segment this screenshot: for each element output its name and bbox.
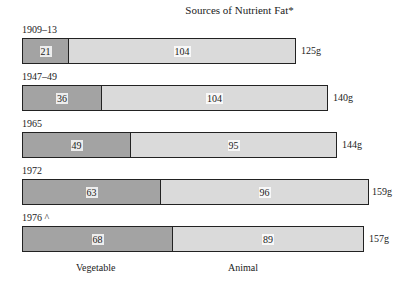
- animal-segment: 104: [102, 86, 327, 110]
- vegetable-segment: 68: [23, 227, 173, 251]
- chart-title: Sources of Nutrient Fat*: [0, 4, 409, 16]
- total-label: 140g: [333, 92, 353, 103]
- stacked-bar: 68 89: [22, 226, 364, 252]
- total-label: 144g: [342, 139, 362, 150]
- animal-value: 104: [206, 93, 223, 104]
- vegetable-value: 49: [71, 140, 83, 151]
- total-label: 157g: [369, 233, 389, 244]
- year-label: 1972: [22, 165, 42, 176]
- vegetable-value: 68: [92, 234, 104, 245]
- legend-vegetable: Vegetable: [76, 262, 115, 273]
- stacked-bar: 49 95: [22, 132, 337, 158]
- animal-value: 95: [228, 140, 240, 151]
- vegetable-value: 36: [56, 93, 68, 104]
- year-label: 1965: [22, 118, 42, 129]
- stacked-bar: 63 96: [22, 179, 369, 205]
- vegetable-segment: 36: [23, 86, 102, 110]
- vegetable-segment: 63: [23, 180, 161, 204]
- animal-segment: 104: [69, 39, 295, 63]
- animal-segment: 89: [173, 227, 363, 251]
- total-label: 125g: [301, 45, 321, 56]
- year-label: 1947–49: [22, 71, 57, 82]
- year-label: 1976 ^: [22, 212, 49, 223]
- vegetable-value: 21: [40, 46, 52, 57]
- legend-animal: Animal: [228, 262, 258, 273]
- vegetable-value: 63: [86, 187, 98, 198]
- vegetable-segment: 21: [23, 39, 69, 63]
- animal-segment: 95: [131, 133, 336, 157]
- year-label: 1909–13: [22, 24, 57, 35]
- vegetable-segment: 49: [23, 133, 131, 157]
- stacked-bar: 21 104: [22, 38, 296, 64]
- animal-value: 89: [262, 234, 274, 245]
- animal-value: 96: [259, 187, 271, 198]
- stacked-bar: 36 104: [22, 85, 328, 111]
- animal-segment: 96: [161, 180, 368, 204]
- total-label: 159g: [372, 186, 392, 197]
- animal-value: 104: [174, 46, 191, 57]
